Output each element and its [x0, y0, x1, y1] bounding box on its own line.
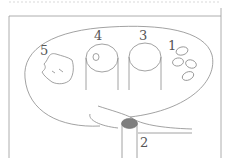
- main-outline: [25, 26, 213, 126]
- label-3: 3: [139, 28, 147, 43]
- blob-mark-2: [59, 69, 63, 72]
- label-4: 4: [94, 28, 102, 43]
- small-circle: [93, 54, 99, 61]
- label-1: 1: [168, 38, 176, 53]
- tube-gray-top: [122, 119, 138, 129]
- channel-upper-curve: [98, 106, 192, 129]
- blob-mark-1: [52, 71, 55, 73]
- label-5: 5: [40, 43, 48, 58]
- part-2-tube: [122, 119, 138, 159]
- frame: [9, 8, 221, 158]
- part-5-blob: [42, 54, 73, 84]
- part-4-cylinder: [86, 44, 118, 90]
- label-2: 2: [140, 135, 148, 150]
- part-3-cylinder: [129, 43, 161, 90]
- diagram-canvas: 2 4 3 1 5: [0, 0, 228, 161]
